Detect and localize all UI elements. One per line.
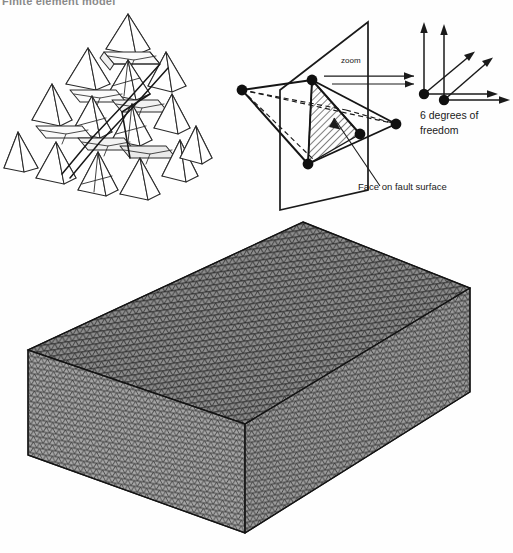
mesh-block-svg xyxy=(0,0,513,553)
figure-canvas: Finite element model xyxy=(0,0,513,553)
panel-mesh-block xyxy=(0,0,513,553)
